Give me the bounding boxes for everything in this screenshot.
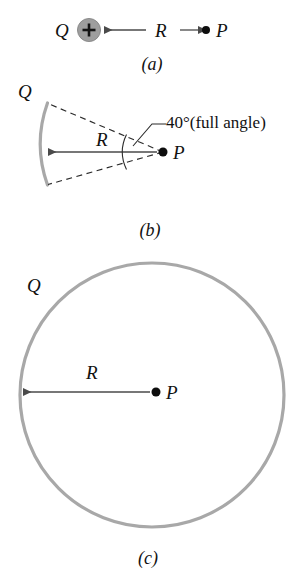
panel-a-point-label: P — [215, 20, 228, 41]
panel-c-charged-ring — [20, 263, 284, 527]
panel-b-angle-leader-line — [133, 124, 166, 146]
panel-c: Q R P (c) — [20, 263, 284, 569]
physics-figure: Q R P (a) Q R — [0, 0, 298, 572]
panel-a-distance-label: R — [154, 20, 167, 41]
panel-b-caption: (b) — [140, 220, 161, 241]
panel-a: Q R P (a) — [55, 19, 228, 76]
panel-b-point-label: P — [172, 142, 185, 163]
panel-b-distance-label: R — [95, 129, 108, 150]
panel-a-caption: (a) — [142, 54, 163, 75]
panel-b-charged-arc — [40, 103, 47, 185]
panel-a-point-p-dot — [202, 26, 210, 34]
panel-c-charge-label: Q — [27, 275, 41, 296]
panel-a-point-charge — [78, 19, 101, 42]
panel-a-charge-label: Q — [55, 20, 69, 41]
panel-b-wedge-side-lower — [48, 152, 163, 185]
panel-c-point-p-dot — [152, 388, 161, 397]
panel-b-charge-label: Q — [18, 81, 32, 102]
panel-b: Q R 40°(full angle) P (b) — [18, 81, 266, 241]
panel-c-point-label: P — [165, 382, 178, 403]
panel-b-point-p-dot — [159, 148, 168, 157]
panel-c-distance-label: R — [85, 362, 98, 383]
figure-canvas: Q R P (a) Q R — [0, 0, 298, 572]
panel-b-angle-label: 40°(full angle) — [166, 113, 266, 132]
panel-c-caption: (c) — [138, 548, 158, 569]
